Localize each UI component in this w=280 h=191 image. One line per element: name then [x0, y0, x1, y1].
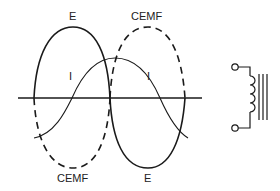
waveform-diagram: E CEMF I I CEMF E [0, 0, 280, 191]
label-cemf-bottom: CEMF [57, 172, 88, 184]
cemf-curve-positive [110, 27, 185, 98]
label-cemf-top: CEMF [131, 10, 162, 22]
label-e-bottom: E [144, 172, 151, 184]
label-i-left: I [69, 70, 72, 82]
label-e-top: E [69, 10, 76, 22]
e-curve-negative [110, 98, 185, 168]
inductor-symbol-icon [232, 64, 267, 131]
label-i-right: I [147, 70, 150, 82]
